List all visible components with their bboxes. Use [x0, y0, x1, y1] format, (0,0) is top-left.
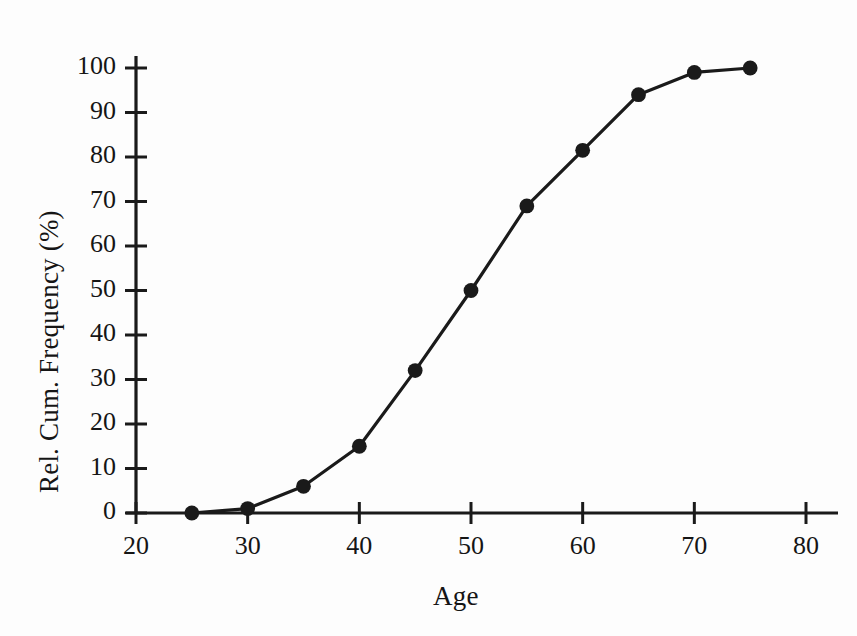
- y-tick-label: 0: [103, 496, 116, 526]
- x-axis-title: Age: [433, 581, 479, 612]
- x-tick-label: 80: [776, 531, 836, 561]
- x-tick-label: 30: [218, 531, 278, 561]
- y-tick-label: 20: [90, 407, 116, 437]
- y-tick-label: 50: [90, 274, 116, 304]
- y-tick-label: 40: [90, 318, 116, 348]
- x-tick-label: 70: [664, 531, 724, 561]
- y-tick-label: 60: [90, 229, 116, 259]
- x-tick-label: 20: [106, 531, 166, 561]
- x-tick-label: 40: [329, 531, 389, 561]
- y-tick-label: 70: [90, 185, 116, 215]
- data-point-markers: [184, 61, 757, 521]
- x-tick-label: 50: [441, 531, 501, 561]
- axis-lines: [126, 56, 838, 513]
- y-tick-label: 90: [90, 96, 116, 126]
- y-tick-label: 30: [90, 363, 116, 393]
- y-tick-label: 100: [77, 51, 116, 81]
- chart-figure: Rel. Cum. Frequency (%) Age 010203040506…: [0, 0, 857, 636]
- x-tick-label: 60: [553, 531, 613, 561]
- y-axis-title: Rel. Cum. Frequency (%): [34, 210, 65, 493]
- y-tick-label: 10: [90, 452, 116, 482]
- y-tick-label: 80: [90, 140, 116, 170]
